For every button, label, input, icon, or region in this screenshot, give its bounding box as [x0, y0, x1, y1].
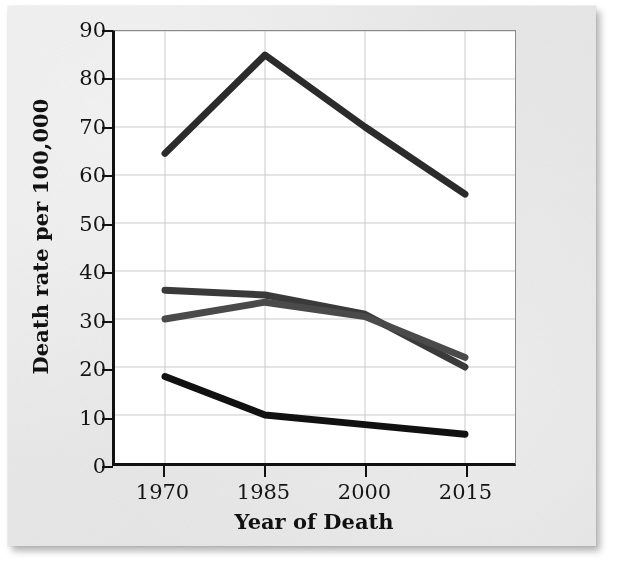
- y-tick-mark-30: [102, 321, 113, 323]
- x-tick-mark-1970: [163, 466, 165, 477]
- plot-area: [112, 30, 516, 466]
- y-tick-mark-10: [102, 418, 113, 420]
- y-axis-title: Death rate per 100,000: [28, 57, 53, 417]
- y-tick-mark-90: [102, 30, 113, 32]
- y-tick-mark-40: [102, 272, 113, 274]
- y-tick-label-90: 90: [60, 18, 106, 42]
- y-tick-label-80: 80: [60, 66, 106, 90]
- data-line-series-1: [165, 55, 465, 194]
- y-tick-label-0: 0: [60, 454, 106, 478]
- x-axis-title: Year of Death: [112, 509, 516, 534]
- y-tick-mark-80: [102, 78, 113, 80]
- y-tick-mark-60: [102, 175, 113, 177]
- y-tick-label-10: 10: [60, 406, 106, 430]
- y-axis-tick-labels: 0102030405060708090: [60, 30, 106, 466]
- y-tick-mark-20: [102, 369, 113, 371]
- y-tick-label-60: 60: [60, 163, 106, 187]
- x-tick-mark-1985: [264, 466, 266, 477]
- x-axis-tick-labels: 1970198520002015: [112, 480, 516, 510]
- x-tick-label-2000: 2000: [320, 480, 410, 504]
- line-chart-figure: Death rate per 100,000 01020304050607080…: [8, 6, 596, 546]
- x-tick-label-1970: 1970: [118, 480, 208, 504]
- vertical-gridlines: [165, 31, 465, 463]
- x-tick-mark-2015: [466, 466, 468, 477]
- data-line-series-2: [165, 290, 465, 367]
- y-tick-mark-0: [102, 466, 113, 468]
- data-series-group: [165, 55, 465, 434]
- y-tick-label-40: 40: [60, 260, 106, 284]
- x-tick-label-2015: 2015: [421, 480, 511, 504]
- y-tick-label-50: 50: [60, 212, 106, 236]
- x-tick-mark-2000: [365, 466, 367, 477]
- data-line-series-3: [165, 302, 465, 357]
- y-tick-label-30: 30: [60, 309, 106, 333]
- y-tick-mark-50: [102, 224, 113, 226]
- y-tick-label-70: 70: [60, 115, 106, 139]
- plot-svg: [115, 31, 515, 463]
- scanned-page: Death rate per 100,000 01020304050607080…: [0, 0, 619, 570]
- x-tick-label-1985: 1985: [219, 480, 309, 504]
- y-tick-label-20: 20: [60, 357, 106, 381]
- y-tick-mark-70: [102, 127, 113, 129]
- data-line-series-4: [165, 377, 465, 435]
